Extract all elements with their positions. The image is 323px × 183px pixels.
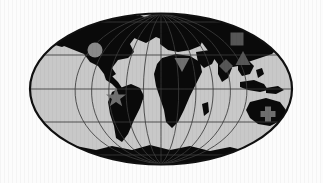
world-map-figure: World map with site markers	[0, 0, 323, 183]
marker-circle-north-america[interactable]	[88, 43, 103, 58]
world-map-svg	[0, 0, 323, 183]
marker-square-north-asia[interactable]	[231, 33, 244, 46]
